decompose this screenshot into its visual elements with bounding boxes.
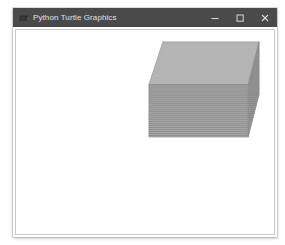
- window-titlebar[interactable]: Python Turtle Graphics: [13, 8, 277, 27]
- minimize-button[interactable]: [202, 8, 227, 27]
- turtle-graphics-window: Python Turtle Graphics: [13, 8, 277, 237]
- box-top-face: [149, 42, 259, 85]
- box-front-face: [149, 84, 248, 136]
- window-controls: [202, 8, 277, 27]
- maximize-button[interactable]: [227, 8, 252, 27]
- window-title: Python Turtle Graphics: [33, 8, 117, 27]
- turtle-canvas-area[interactable]: [15, 29, 275, 235]
- close-button[interactable]: [252, 8, 277, 27]
- desktop-background: Python Turtle Graphics: [0, 0, 285, 245]
- turtle-drawing: [16, 30, 274, 234]
- turtle-icon: [18, 12, 29, 23]
